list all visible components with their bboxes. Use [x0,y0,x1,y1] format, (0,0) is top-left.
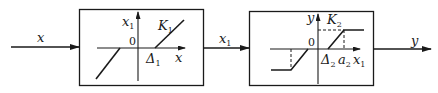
block-dead-zone: x1 K1 0 Δ1 x [80,10,204,86]
input-signal: x [11,30,79,47]
y-axis-label: y [306,10,315,25]
input-label: x [37,30,45,45]
x-axis-label: x1 [353,52,365,69]
slope-label: K1 [157,18,173,35]
block-diagram: x x1 K1 0 Δ1 x x1 y K2 0 [0,0,438,93]
curve-negative [271,49,308,70]
x-axis-label: x [175,50,183,65]
block-dead-zone-saturation: y K2 0 Δ2 a2 x1 [250,10,374,86]
y-axis-label: x1 [122,14,134,31]
intermediate-label: x1 [219,31,231,48]
output-signal: y [373,33,431,49]
intermediate-signal: x1 [203,31,249,48]
curve-positive [328,30,364,49]
threshold-label: Δ1 [145,51,160,68]
origin-label: 0 [129,35,136,48]
curve-negative [96,48,120,79]
origin-label: 0 [308,36,315,49]
threshold-label: Δ2 [320,52,335,69]
saturation-label: a2 [338,52,351,69]
slope-label: K2 [326,12,342,29]
output-label: y [410,33,419,48]
